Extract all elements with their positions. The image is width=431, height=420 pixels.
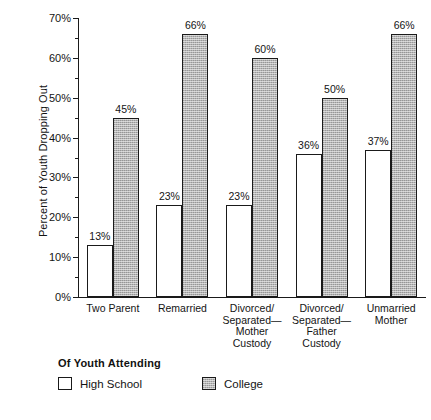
bar	[365, 150, 391, 297]
y-tick-label: 30%	[49, 171, 71, 183]
tick-mark	[73, 297, 78, 298]
plot-area: 0%10%20%30%40%50%60%70% 13%45%23%66%23%6…	[78, 18, 426, 297]
legend-label: College	[224, 378, 263, 390]
legend-entry-hs[interactable]: High School	[58, 377, 142, 390]
y-tick-label: 10%	[49, 251, 71, 263]
bar	[391, 34, 417, 297]
y-tick-label: 70%	[49, 12, 71, 24]
y-axis-title: Percent of Youth Dropping Out	[37, 36, 49, 286]
bar-value-label: 66%	[185, 19, 206, 31]
tick-mark	[75, 38, 78, 39]
tick-mark	[73, 257, 78, 258]
bar-chart: Percent of Youth Dropping Out 0%10%20%30…	[0, 0, 431, 420]
legend-entry-col[interactable]: College	[202, 377, 263, 390]
legend-title: Of Youth Attending	[58, 357, 263, 369]
y-tick-label: 0%	[55, 291, 71, 303]
tick-mark	[73, 98, 78, 99]
legend-swatch-icon	[202, 377, 216, 390]
bar	[182, 34, 208, 297]
bar-value-label: 50%	[324, 83, 345, 95]
bar	[156, 205, 182, 297]
bar-value-label: 23%	[228, 190, 249, 202]
x-axis-label-line: Mother	[348, 315, 431, 327]
bar	[322, 98, 348, 297]
bar-value-label: 13%	[89, 230, 110, 242]
bar-value-label: 45%	[115, 103, 136, 115]
legend-label: High School	[80, 378, 142, 390]
x-axis-line	[78, 297, 426, 298]
x-axis-label-line: Custody	[279, 338, 365, 350]
bar	[226, 205, 252, 297]
bar	[113, 118, 139, 297]
tick-mark	[75, 277, 78, 278]
y-axis-line	[78, 18, 79, 298]
y-tick-label: 60%	[49, 52, 71, 64]
y-tick-label: 40%	[49, 132, 71, 144]
bar-value-label: 66%	[394, 19, 415, 31]
bar-value-label: 23%	[159, 190, 180, 202]
bar	[296, 154, 322, 297]
bar-value-label: 37%	[368, 135, 389, 147]
y-tick-label: 50%	[49, 92, 71, 104]
tick-mark	[73, 58, 78, 59]
bar-value-label: 36%	[298, 139, 319, 151]
tick-mark	[73, 138, 78, 139]
tick-mark	[75, 78, 78, 79]
x-axis-label: UnmarriedMother	[348, 303, 431, 326]
tick-mark	[75, 197, 78, 198]
tick-mark	[75, 237, 78, 238]
tick-mark	[73, 177, 78, 178]
legend-swatch-icon	[58, 377, 72, 390]
y-tick-label: 20%	[49, 211, 71, 223]
tick-mark	[75, 118, 78, 119]
tick-mark	[75, 158, 78, 159]
bar	[252, 58, 278, 297]
bar	[87, 245, 113, 297]
legend-entries: High SchoolCollege	[58, 377, 263, 390]
tick-mark	[73, 18, 78, 19]
legend: Of Youth Attending High SchoolCollege	[58, 357, 263, 390]
tick-mark	[73, 217, 78, 218]
bar-value-label: 60%	[254, 43, 275, 55]
x-axis-label-line: Unmarried	[348, 303, 431, 315]
